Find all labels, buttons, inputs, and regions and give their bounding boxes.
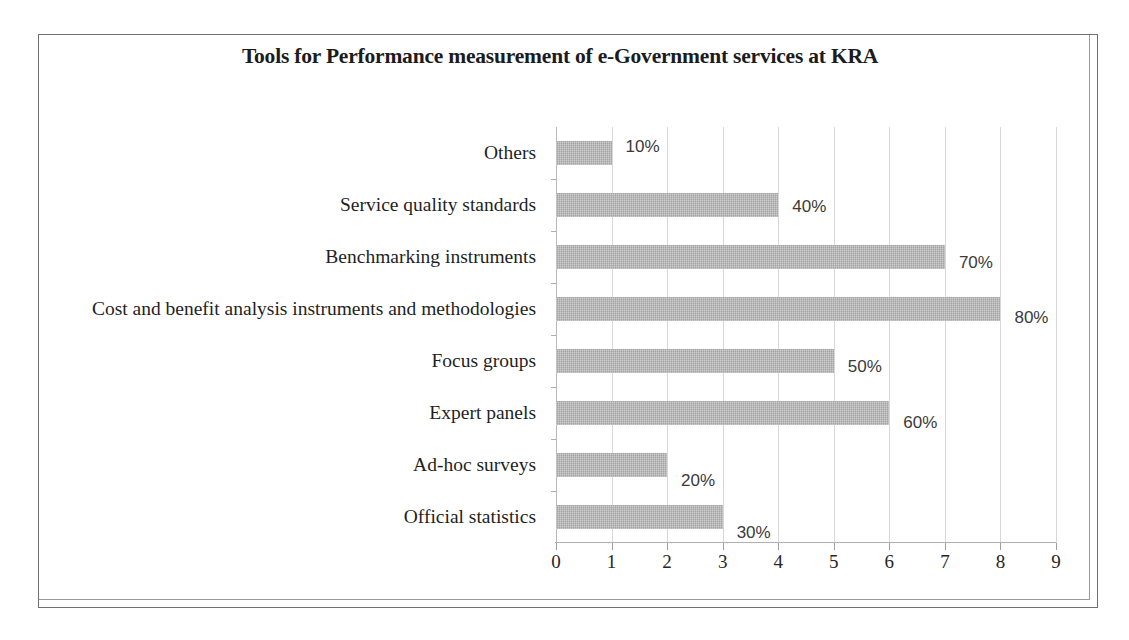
category-tick-mark — [551, 283, 556, 284]
chart-title: Tools for Performance measurement of e-G… — [60, 44, 1060, 69]
bar-band: 50% — [556, 335, 1056, 387]
value-tick-mark — [723, 543, 724, 550]
plot-area: 10%40%70%80%50%60%20%30% — [556, 127, 1056, 543]
category-tick-mark — [551, 335, 556, 336]
bar-value-label: 40% — [792, 197, 826, 217]
bar-value-label: 50% — [848, 357, 882, 377]
value-tick-label: 9 — [1051, 551, 1061, 573]
bar-value-label: 30% — [737, 523, 771, 543]
value-tick-label: 8 — [996, 551, 1006, 573]
category-tick-mark — [551, 231, 556, 232]
value-tick-mark — [556, 543, 557, 550]
category-tick-mark — [551, 387, 556, 388]
bar — [556, 141, 612, 165]
bar-band: 70% — [556, 231, 1056, 283]
category-label: Service quality standards — [340, 179, 536, 231]
bar-value-label: 20% — [681, 471, 715, 491]
value-tick-label: 7 — [940, 551, 950, 573]
value-tick-label: 2 — [662, 551, 672, 573]
category-axis-line — [555, 542, 1056, 543]
category-label: Others — [484, 127, 536, 179]
chart-page: Tools for Performance measurement of e-G… — [0, 0, 1129, 640]
value-axis-tick-labels: 0123456789 — [556, 551, 1076, 581]
bar-value-label: 10% — [626, 137, 660, 157]
category-label: Cost and benefit analysis instruments an… — [92, 283, 536, 335]
category-label: Focus groups — [431, 335, 536, 387]
value-tick-mark — [1056, 543, 1057, 550]
bar — [556, 505, 723, 529]
value-tick-mark — [612, 543, 613, 550]
bar-value-label: 70% — [959, 253, 993, 273]
bar-series: 10%40%70%80%50%60%20%30% — [556, 127, 1056, 543]
bar — [556, 401, 889, 425]
value-tick-label: 1 — [607, 551, 617, 573]
bar-band: 20% — [556, 439, 1056, 491]
bar — [556, 245, 945, 269]
bar — [556, 453, 667, 477]
bar — [556, 193, 778, 217]
bar-value-label: 60% — [903, 413, 937, 433]
value-tick-mark — [945, 543, 946, 550]
value-tick-label: 5 — [829, 551, 839, 573]
bar-band: 60% — [556, 387, 1056, 439]
bar — [556, 297, 1000, 321]
category-label: Expert panels — [429, 387, 536, 439]
bar-band: 40% — [556, 179, 1056, 231]
bar — [556, 349, 834, 373]
value-tick-label: 4 — [773, 551, 783, 573]
bar-band: 80% — [556, 283, 1056, 335]
value-tick-label: 6 — [885, 551, 895, 573]
value-tick-label: 3 — [718, 551, 728, 573]
category-label: Official statistics — [404, 491, 536, 543]
bar-value-label: 80% — [1014, 308, 1048, 328]
category-label: Benchmarking instruments — [325, 231, 536, 283]
value-tick-label: 0 — [551, 551, 561, 573]
category-tick-mark — [551, 491, 556, 492]
value-tick-mark — [834, 543, 835, 550]
bar-band: 30% — [556, 491, 1056, 543]
value-tick-mark — [778, 543, 779, 550]
category-tick-mark — [551, 179, 556, 180]
bar-band: 10% — [556, 127, 1056, 179]
category-tick-mark — [551, 439, 556, 440]
value-tick-mark — [889, 543, 890, 550]
category-label: Ad-hoc surveys — [413, 439, 536, 491]
value-tick-mark — [1000, 543, 1001, 550]
value-tick-mark — [667, 543, 668, 550]
category-axis-labels: OthersService quality standardsBenchmark… — [46, 127, 546, 543]
